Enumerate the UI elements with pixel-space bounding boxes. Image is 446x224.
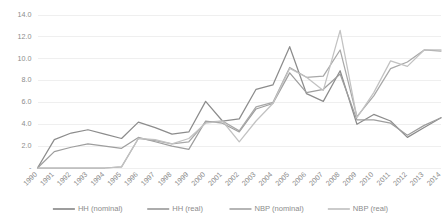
y-tick-label: 10.0: [18, 54, 32, 63]
series-line: [38, 30, 442, 168]
x-tick-label: 2001: [206, 170, 224, 188]
legend-label[interactable]: NBP (nominal): [254, 204, 304, 213]
legend-label[interactable]: HH (nominal): [78, 204, 123, 213]
x-tick-label: 2004: [257, 170, 275, 188]
x-tick-label: 2012: [391, 170, 409, 188]
x-tick-label: 2007: [307, 170, 325, 188]
x-tick-label: 1999: [173, 170, 191, 188]
x-tick-label: 2000: [189, 170, 207, 188]
data-series-group: [38, 30, 442, 168]
x-tick-label: 2008: [324, 170, 342, 188]
x-tick-label: 1990: [21, 170, 39, 188]
x-tick-label: 2005: [273, 170, 291, 188]
x-tick-label: 2003: [240, 170, 258, 188]
x-tick-label: 1991: [38, 170, 56, 188]
y-tick-label: 4.0: [22, 119, 32, 128]
x-tick-label: 1995: [105, 170, 123, 188]
x-tick-label: 1993: [72, 170, 90, 188]
y-tick-label: 6.0: [22, 97, 32, 106]
x-tick-label: 2009: [341, 170, 359, 188]
chart-plot-area: 14.012.010.08.06.04.02.0- 19901991199219…: [0, 0, 446, 224]
series-line: [38, 73, 442, 168]
y-axis-tick-labels: 14.012.010.08.06.04.02.0-: [18, 10, 33, 172]
chart-container: 14.012.010.08.06.04.02.0- 19901991199219…: [0, 0, 446, 224]
x-tick-label: 1998: [156, 170, 174, 188]
legend-label[interactable]: HH (real): [172, 204, 203, 213]
x-tick-label: 2014: [425, 170, 443, 188]
line-chart: 14.012.010.08.06.04.02.0- 19901991199219…: [0, 0, 446, 224]
legend-label[interactable]: NBP (real): [353, 204, 389, 213]
x-tick-label: 1992: [55, 170, 73, 188]
x-tick-label: 1994: [88, 170, 106, 188]
x-axis-tick-labels: 1990199119921993199419951996199719981999…: [21, 170, 442, 188]
y-tick-label: 12.0: [18, 32, 32, 41]
chart-legend: HH (nominal)HH (real)NBP (nominal)NBP (r…: [53, 204, 389, 213]
y-tick-label: 8.0: [22, 75, 32, 84]
y-tick-label: 14.0: [18, 10, 32, 19]
x-tick-label: 2013: [408, 170, 426, 188]
x-tick-label: 1996: [122, 170, 140, 188]
series-line: [38, 47, 442, 168]
x-tick-label: 2006: [290, 170, 308, 188]
x-tick-label: 1997: [139, 170, 157, 188]
y-tick-label: 2.0: [22, 141, 32, 150]
x-tick-label: 2011: [375, 170, 392, 187]
x-tick-label: 2010: [357, 170, 375, 188]
series-line: [38, 50, 442, 168]
x-tick-label: 2002: [223, 170, 241, 188]
